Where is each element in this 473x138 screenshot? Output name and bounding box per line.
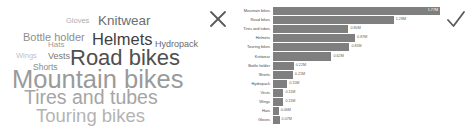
bar-track: 0.07M <box>273 116 440 124</box>
bar-value-label: 0.87M <box>357 36 367 40</box>
bar-fill[interactable] <box>273 80 287 88</box>
cloud-word[interactable]: Shorts <box>33 63 58 72</box>
bar-category-label: Tires and tubes <box>232 27 273 31</box>
bar-track: 0.11M <box>273 98 440 106</box>
bar-track: 0.15M <box>273 80 440 88</box>
bar-row[interactable]: Hats0.06M <box>232 107 440 115</box>
bar-category-label: Knitwear <box>232 55 273 59</box>
bar-track: 1.77M <box>273 7 440 15</box>
cloud-word[interactable]: Road bikes <box>70 47 180 69</box>
bar-fill[interactable] <box>273 71 293 79</box>
bar-category-label: Touring bikes <box>232 45 273 49</box>
bar-row[interactable]: Wings0.11M <box>232 98 440 106</box>
bar-fill[interactable] <box>273 116 280 124</box>
bar-category-label: Road bikes <box>232 18 273 22</box>
bar-row[interactable]: Hydropack0.15M <box>232 80 440 88</box>
bar-track: 1.28M <box>273 16 440 24</box>
bar-track: 0.21M <box>273 71 440 79</box>
bar-value-label: 0.22M <box>296 64 306 68</box>
x-mark-icon[interactable] <box>207 8 229 30</box>
bar-row[interactable]: Vests0.11M <box>232 89 440 97</box>
bar-category-label: Hats <box>232 109 273 113</box>
bar-value-label: 0.07M <box>282 118 292 122</box>
bar-row[interactable]: Gloves0.07M <box>232 116 440 124</box>
cloud-word[interactable]: Helmets <box>92 31 153 48</box>
bar-row[interactable]: Bottle holder0.22M <box>232 62 440 70</box>
bar-value-label: 0.80M <box>350 27 360 31</box>
cloud-word[interactable]: Vests <box>48 52 70 61</box>
bar-row[interactable]: Road bikes1.28M <box>232 16 440 24</box>
bar-category-label: Wings <box>232 100 273 104</box>
bar-row[interactable]: Mountain bikes1.77M <box>232 7 440 15</box>
bar-value-label: 0.11M <box>285 91 295 95</box>
bar-track: 0.11M <box>273 89 440 97</box>
cloud-word[interactable]: Wings <box>16 52 37 60</box>
horizontal-bar-chart[interactable]: Mountain bikes1.77MRoad bikes1.28MTires … <box>232 7 440 131</box>
bar-track: 0.06M <box>273 107 440 115</box>
cloud-word[interactable]: Gloves <box>66 17 89 25</box>
cloud-word[interactable]: Hydropack <box>155 40 198 49</box>
bar-value-label: 0.11M <box>285 100 295 104</box>
bar-track: 0.62M <box>273 52 440 60</box>
cloud-word[interactable]: Hats <box>48 41 64 49</box>
bar-value-label: 0.21M <box>295 73 305 77</box>
bar-track: 0.87M <box>273 34 440 42</box>
bar-row[interactable]: Shorts0.21M <box>232 71 440 79</box>
bar-value-label: 1.77M <box>428 9 438 13</box>
bar-category-label: Gloves <box>232 118 273 122</box>
bar-category-label: Bottle holder <box>232 64 273 68</box>
bar-row[interactable]: Touring bikes0.81M <box>232 43 440 51</box>
bar-fill[interactable] <box>273 25 348 33</box>
bar-value-label: 1.28M <box>396 18 406 22</box>
cloud-word[interactable]: Touring bikes <box>36 107 145 126</box>
bar-track: 0.81M <box>273 43 440 51</box>
bar-fill[interactable] <box>273 52 331 60</box>
bar-fill[interactable] <box>273 107 279 115</box>
bar-value-label: 0.06M <box>281 109 291 113</box>
bar-row[interactable]: Tires and tubes0.80M <box>232 25 440 33</box>
check-mark-icon[interactable] <box>444 8 468 32</box>
bar-fill[interactable] <box>273 89 283 97</box>
bar-track: 0.80M <box>273 25 440 33</box>
word-cloud-visual[interactable]: Mountain bikesRoad bikesTires and tubesT… <box>0 0 205 138</box>
bar-fill[interactable] <box>273 34 355 42</box>
bar-fill[interactable] <box>273 16 394 24</box>
bar-category-label: Mountain bikes <box>232 9 273 13</box>
bar-track: 0.22M <box>273 62 440 70</box>
bar-row[interactable]: Helmets0.87M <box>232 34 440 42</box>
bar-value-label: 0.81M <box>351 46 361 50</box>
bar-category-label: Helmets <box>232 36 273 40</box>
bar-fill[interactable] <box>273 7 440 15</box>
bar-category-label: Hydropack <box>232 82 273 86</box>
bar-value-label: 0.62M <box>333 55 343 59</box>
bar-value-label: 0.15M <box>289 82 299 86</box>
cloud-word[interactable]: Knitwear <box>98 14 151 28</box>
screenshot-root: Mountain bikesRoad bikesTires and tubesT… <box>0 0 473 138</box>
bar-row[interactable]: Knitwear0.62M <box>232 52 440 60</box>
bar-category-label: Shorts <box>232 73 273 77</box>
bar-category-label: Vests <box>232 91 273 95</box>
bar-fill[interactable] <box>273 43 349 51</box>
bar-fill[interactable] <box>273 98 283 106</box>
bar-fill[interactable] <box>273 62 294 70</box>
